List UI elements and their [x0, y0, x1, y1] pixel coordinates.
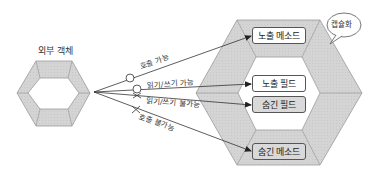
hidden-method-box: 숨긴 메소드: [252, 143, 306, 160]
exposed-method-box: 노출 메소드: [252, 27, 306, 44]
exposed-field-box: 노출 필드: [252, 75, 306, 92]
encapsulation-label: 캡슐화: [331, 21, 352, 29]
external-object-hexagon: [17, 61, 90, 126]
hidden-field-box: 숨긴 필드: [252, 96, 306, 113]
encapsulation-diagram: 외부 객체 캡슐화 호출 가능 읽기/쓰기 가능 읽기/쓰기 불가능 호출 불가…: [0, 0, 381, 175]
cross-denied-icon: [132, 106, 140, 113]
external-object-label: 외부 객체: [38, 47, 73, 56]
diagram-canvas: [0, 0, 381, 175]
circle-allowed-icon: [126, 74, 134, 82]
